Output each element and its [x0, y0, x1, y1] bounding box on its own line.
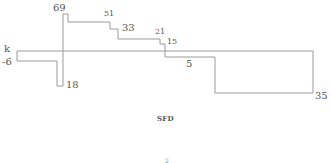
label-k: k: [4, 44, 10, 54]
segment-neg6: [17, 51, 63, 86]
label-18: 18: [66, 80, 79, 90]
label-33: 33: [122, 23, 135, 33]
label-51: 51: [104, 10, 114, 18]
segment-positive-steps: [63, 14, 165, 51]
shear-force-diagram: [0, 0, 331, 163]
label-15: 15: [167, 38, 177, 46]
label-5: 5: [186, 59, 192, 69]
diagram-title: SFD: [0, 114, 331, 123]
label-neg6: -6: [2, 57, 12, 67]
label-35: 35: [315, 91, 328, 101]
label-21: 21: [155, 28, 165, 36]
partial-text: 2: [165, 157, 169, 163]
label-69: 69: [53, 3, 66, 13]
